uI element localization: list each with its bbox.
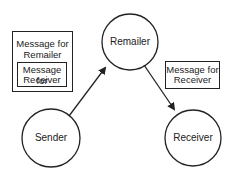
outer-message-box: Message for Remailer Message for Receive… — [12, 31, 73, 92]
inner-message-line2: Receiver — [18, 75, 66, 86]
outer-message-line2: Remailer — [13, 50, 72, 61]
outer-message-line1: Message for — [13, 39, 72, 50]
edge-sender-to-remailer — [69, 68, 105, 116]
inner-message-box: Message for Receiver — [17, 62, 67, 87]
receiver-node-label: Receiver — [165, 132, 221, 143]
diagram-canvas: Remailer Sender Receiver Message for Rem… — [0, 0, 235, 177]
right-message-box: Message for Receiver — [165, 61, 220, 89]
sender-node-label: Sender — [22, 132, 80, 143]
remailer-node-label: Remailer — [102, 36, 158, 47]
right-message-line2: Receiver — [166, 75, 219, 86]
